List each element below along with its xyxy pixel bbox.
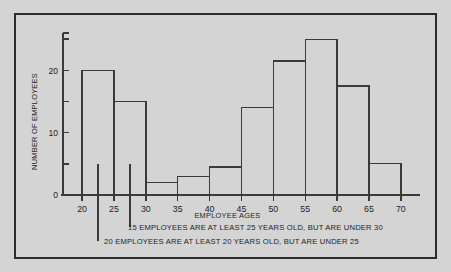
histogram-bar-outline: [369, 164, 401, 195]
histogram-bar: [305, 39, 337, 195]
histogram-bar: [369, 164, 401, 195]
histogram-bar-outline: [273, 61, 305, 195]
histogram-bar-outline: [337, 86, 369, 195]
histogram-bar-outline: [210, 167, 242, 195]
histogram-bar: [210, 167, 242, 195]
annotation-bin-20-25: 20 EMPLOYEES ARE AT LEAST 20 YEARS OLD, …: [16, 237, 439, 246]
histogram-bar-outline: [242, 108, 274, 195]
histogram-bar-outline: [305, 39, 337, 195]
annotation-bin-25-30: 15 EMPLOYEES ARE AT LEAST 25 YEARS OLD, …: [16, 223, 439, 232]
y-axis-tick-label: 20: [48, 66, 58, 76]
y-axis-tick-label: 0: [53, 190, 58, 200]
chart-frame: 01020 2025303540455055606570 NUMBER OF E…: [14, 13, 437, 259]
histogram-bar: [273, 61, 305, 195]
histogram-bar-outline: [178, 176, 210, 195]
histogram-bar: [337, 86, 369, 195]
histogram-plot: 01020 2025303540455055606570 NUMBER OF E…: [16, 15, 439, 261]
histogram-bar: [146, 183, 178, 195]
x-axis-title: EMPLOYEE AGES: [16, 211, 439, 220]
histogram-bar: [242, 108, 274, 195]
y-axis-title: NUMBER OF EMPLOYEES: [30, 56, 39, 188]
y-axis: 01020: [48, 33, 69, 200]
histogram-bar-outline: [146, 183, 178, 195]
y-axis-tick-label: 10: [48, 128, 58, 138]
histogram-bar: [178, 176, 210, 195]
